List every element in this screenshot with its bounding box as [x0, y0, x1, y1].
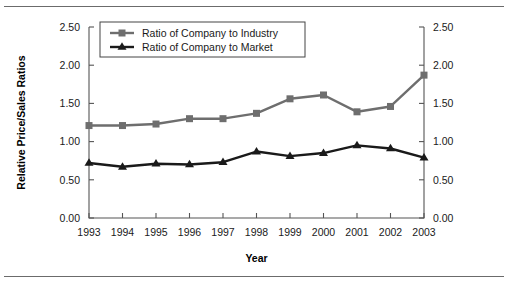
y-axis-tick-label-left: 1.00	[60, 135, 81, 147]
series-1	[86, 72, 428, 129]
x-axis-tick-label: 1995	[144, 226, 168, 238]
x-axis-tick-label: 1998	[245, 226, 269, 238]
data-point-marker-square	[387, 103, 394, 110]
y-axis-tick-label-right: 2.00	[433, 59, 454, 71]
y-axis-right-tick-labels: 0.000.501.001.502.002.50	[433, 21, 454, 224]
data-point-marker-square	[86, 122, 93, 129]
y-axis-tick-label-left: 0.00	[60, 212, 81, 224]
y-axis-tick-label-left: 2.00	[60, 59, 81, 71]
series-line	[89, 75, 424, 125]
data-point-marker-square	[253, 110, 260, 117]
x-axis-tick-label: 1999	[278, 226, 302, 238]
y-axis-tick-label-right: 2.50	[433, 21, 454, 33]
figure-container: 0.000.501.001.502.002.50 0.000.501.001.5…	[0, 0, 508, 284]
y-axis-tick-label-right: 1.50	[433, 97, 454, 109]
x-axis-tick-label: 1993	[77, 226, 101, 238]
y-axis-left-tick-labels: 0.000.501.001.502.002.50	[60, 21, 81, 224]
data-point-marker-square	[421, 72, 428, 79]
data-point-marker-square	[320, 91, 327, 98]
x-axis-tick-label: 1994	[111, 226, 135, 238]
data-point-marker-triangle	[252, 147, 261, 155]
y-axis-title: Relative Price/Sales Ratios	[15, 55, 27, 189]
x-axis-tick-label: 1997	[211, 226, 235, 238]
x-axis-tick-label: 1996	[178, 226, 202, 238]
data-point-marker-square	[119, 30, 126, 37]
bottom-divider-rule	[4, 276, 504, 277]
data-point-marker-square	[354, 108, 361, 115]
x-axis-tick-label: 2003	[412, 226, 436, 238]
data-point-marker-square	[186, 115, 193, 122]
x-axis-tick-label: 2002	[379, 226, 403, 238]
data-point-marker-triangle	[85, 158, 94, 166]
x-axis-tick-labels: 1993199419951996199719981999200020012002…	[77, 226, 436, 238]
chart-legend: Ratio of Company to IndustryRatio of Com…	[100, 22, 305, 57]
x-axis-tick-label: 2001	[345, 226, 369, 238]
series-2	[85, 141, 429, 170]
x-axis-title: Year	[245, 252, 267, 264]
y-axis-tick-label-left: 2.50	[60, 21, 81, 33]
y-axis-tick-label-left: 0.50	[60, 174, 81, 186]
top-divider-rule	[4, 6, 504, 7]
chart-series	[85, 72, 429, 170]
data-point-marker-square	[287, 95, 294, 102]
legend-item-label: Ratio of Company to Market	[142, 41, 273, 53]
legend-item-label: Ratio of Company to Industry	[142, 27, 279, 39]
x-axis-tick-label: 2000	[312, 226, 336, 238]
data-point-marker-square	[220, 115, 227, 122]
y-axis-tick-label-right: 0.00	[433, 212, 454, 224]
y-axis-tick-label-right: 1.00	[433, 135, 454, 147]
line-chart: 0.000.501.001.502.002.50 0.000.501.001.5…	[0, 0, 508, 284]
data-point-marker-square	[119, 122, 126, 129]
y-axis-tick-label-right: 0.50	[433, 174, 454, 186]
y-axis-tick-label-left: 1.50	[60, 97, 81, 109]
data-point-marker-square	[153, 121, 160, 128]
